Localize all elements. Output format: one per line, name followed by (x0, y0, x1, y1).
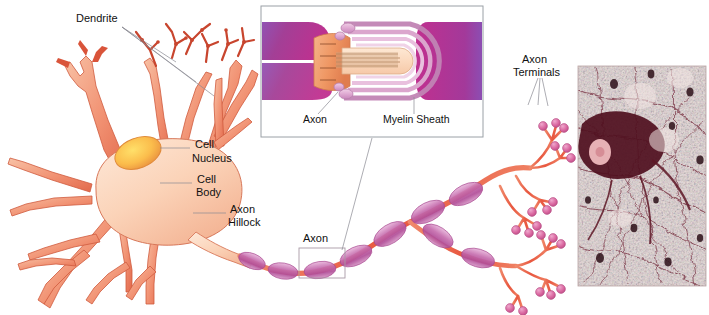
terminal-bulb (549, 234, 558, 243)
dendrite-spine (78, 40, 88, 56)
dendrite-spine-knob (226, 42, 230, 46)
terminal-bulb (551, 142, 560, 151)
axon-terminal-group (500, 126, 568, 308)
terminal-branch (500, 268, 518, 296)
terminal-bulb (547, 291, 556, 300)
terminal-bulb (536, 288, 545, 297)
dendrite-spine-knob (184, 36, 188, 40)
dendrite-leader (122, 27, 214, 96)
label-cell-nucleus-line2: Nucleus (192, 152, 232, 164)
dendrite-spiny-arbor (184, 24, 210, 54)
dendrite-spiny-arbor (222, 30, 238, 60)
dendrite-spine-knob (242, 40, 246, 44)
terminal-bulb (512, 226, 521, 235)
dendrite-branch (8, 158, 92, 192)
myelin-segment (459, 245, 497, 272)
dendrite-spine (56, 58, 70, 68)
terminal-bulb (557, 240, 566, 249)
terminal-bulb (560, 124, 569, 133)
terminal-bulb (567, 154, 576, 163)
myelin-segment (267, 261, 299, 281)
label-dendrite: Dendrite (76, 12, 118, 24)
micrograph-nucleolus (596, 147, 605, 157)
label-cell-body-line2: Body (196, 186, 222, 198)
myelin-loop (334, 83, 344, 91)
myelin-loop (341, 23, 355, 33)
dendrite-spine-knob (156, 40, 160, 44)
dendrite-spine-knob (206, 44, 210, 48)
label-cell-body-line1: Cell (197, 173, 216, 185)
dendrite-spiny-arbor (202, 34, 218, 62)
terminal-bulb (557, 285, 566, 294)
label-axon-terminals-line2: Terminals (513, 66, 561, 78)
label-axon-callout: Axon (303, 232, 328, 244)
neuron-diagram-figure: Dendrite Cell Nucleus Cell Body Axon Hil… (0, 0, 709, 315)
terminal-bulb (533, 222, 542, 231)
axon-terminals-leader (528, 78, 538, 105)
dendrite-leader (122, 27, 176, 62)
label-axon-hillock-line2: Hillock (228, 216, 261, 228)
myelin-segment (303, 259, 337, 280)
myelin-segment (370, 216, 411, 251)
terminal-bulb (525, 229, 534, 238)
terminal-bulb (552, 119, 561, 128)
label-inset-myelin-sheath: Myelin Sheath (383, 113, 450, 125)
dendrite-spiny-arbor (166, 24, 186, 58)
terminal-branch (516, 250, 546, 266)
label-inset-axon: Axon (303, 113, 327, 125)
dendrite-spine-knob (224, 28, 228, 32)
terminal-bulb (506, 304, 515, 313)
dendrite-spine (92, 46, 108, 62)
terminal-bulb (543, 206, 552, 215)
neurofilament-band (336, 52, 398, 68)
terminal-bulb-group (506, 119, 576, 315)
terminal-bulb (549, 198, 558, 207)
terminal-branch (516, 176, 540, 200)
dendrite-branch (10, 196, 92, 216)
terminal-branch (542, 280, 558, 292)
label-axon-terminals-line1: Axon (522, 53, 547, 65)
dendrite-spine-knob (190, 38, 194, 42)
neural-tissue-micrograph (578, 66, 706, 286)
terminal-bulb (537, 231, 546, 240)
myelin-segment-group (236, 178, 497, 282)
dendrite-spine-knob (200, 28, 204, 32)
terminal-bulb (539, 122, 548, 131)
dendrite-branch (38, 250, 90, 304)
myelin-loop (335, 32, 345, 40)
inset-illustration (258, 19, 486, 103)
diagram-canvas: Dendrite Cell Nucleus Cell Body Axon Hil… (0, 0, 709, 315)
terminal-bulb (519, 307, 528, 315)
dendrite-branch (86, 262, 130, 304)
label-cell-nucleus-line1: Cell (195, 138, 214, 150)
myelin-segment (236, 249, 268, 273)
terminal-branch (518, 218, 534, 230)
terminal-branch (516, 266, 546, 280)
terminal-bulb (563, 144, 572, 153)
axon-terminals-leader (542, 78, 548, 106)
terminal-bulb (528, 208, 537, 217)
terminal-branch (500, 186, 524, 218)
label-axon-hillock-line1: Axon (230, 203, 255, 215)
inset-connector-line (342, 138, 372, 250)
dendrite-spine-knob (174, 42, 178, 46)
axon-terminals-leader (538, 78, 540, 105)
